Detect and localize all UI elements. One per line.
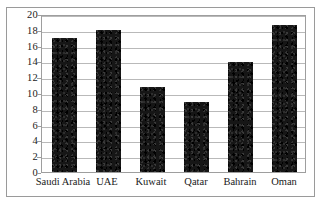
x-axis-category-label: Qatar	[184, 175, 207, 189]
bar-chart: 02468101214161820 Saudi ArabiaUAEKuwaitQ…	[18, 15, 306, 190]
bar	[184, 102, 209, 172]
bar	[228, 62, 253, 172]
bar	[272, 25, 297, 172]
y-axis-tick-mark	[37, 110, 41, 111]
bar	[52, 38, 77, 172]
y-axis-tick-mark	[37, 31, 41, 32]
bar	[96, 30, 121, 172]
y-axis-tick-mark	[37, 47, 41, 48]
y-axis-tick-mark	[37, 62, 41, 63]
x-axis-category-label: Oman	[271, 175, 297, 189]
x-axis-category-label: UAE	[96, 175, 118, 189]
x-axis-category-label: Saudi Arabia	[36, 175, 91, 189]
y-axis-tick-labels: 02468101214161820	[18, 15, 38, 173]
y-axis-tick-mark	[37, 78, 41, 79]
figure-outer-frame: 02468101214161820 Saudi ArabiaUAEKuwaitQ…	[6, 7, 315, 197]
x-axis-category-label: Kuwait	[136, 175, 167, 189]
y-axis-tick-mark	[37, 126, 41, 127]
y-axis-tick-mark	[37, 15, 41, 16]
plot-area	[41, 15, 306, 173]
y-axis-tick-mark	[37, 141, 41, 142]
x-axis-category-label: Bahrain	[223, 175, 256, 189]
bar-series	[42, 16, 305, 172]
y-axis-tick-mark	[37, 173, 41, 174]
y-axis-tick-mark	[37, 94, 41, 95]
y-axis-tick-mark	[37, 157, 41, 158]
x-axis-category-labels: Saudi ArabiaUAEKuwaitQatarBahrainOman	[41, 175, 306, 190]
bar	[140, 87, 165, 172]
